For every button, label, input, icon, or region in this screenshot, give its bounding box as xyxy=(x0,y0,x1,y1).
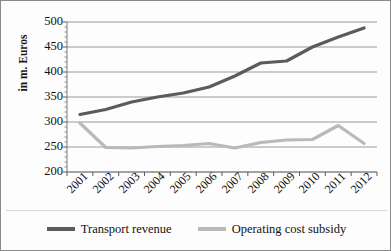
legend-line-icon xyxy=(47,227,75,231)
x-tick-label: 2004 xyxy=(141,169,169,197)
x-tick-label: 2001 xyxy=(64,169,92,197)
x-tick-label: 2010 xyxy=(296,169,324,197)
x-tick-label: 2007 xyxy=(219,169,247,197)
x-axis-tick-labels: 2001200220032004200520062007200820092010… xyxy=(1,1,391,206)
x-tick-label: 2002 xyxy=(89,169,117,197)
x-tick-label: 2003 xyxy=(115,169,143,197)
x-tick-label: 2011 xyxy=(322,170,349,197)
x-tick-label: 2005 xyxy=(167,169,195,197)
legend-item[interactable]: Operating cost subsidy xyxy=(198,222,347,237)
legend-divider xyxy=(6,210,387,211)
x-tick-label: 2009 xyxy=(270,169,298,197)
chart-figure: in m. Euros 500450400350300250200 200120… xyxy=(0,0,391,251)
legend-item[interactable]: Transport revenue xyxy=(47,222,172,237)
chart-plot-area: in m. Euros 500450400350300250200 200120… xyxy=(1,1,391,206)
legend-label: Transport revenue xyxy=(81,222,172,237)
x-tick-label: 2008 xyxy=(244,169,272,197)
legend-label: Operating cost subsidy xyxy=(232,222,347,237)
chart-legend: Transport revenueOperating cost subsidy xyxy=(1,215,391,243)
x-tick-label: 2012 xyxy=(348,169,376,197)
x-tick-label: 2006 xyxy=(193,169,221,197)
legend-line-icon xyxy=(198,227,226,231)
